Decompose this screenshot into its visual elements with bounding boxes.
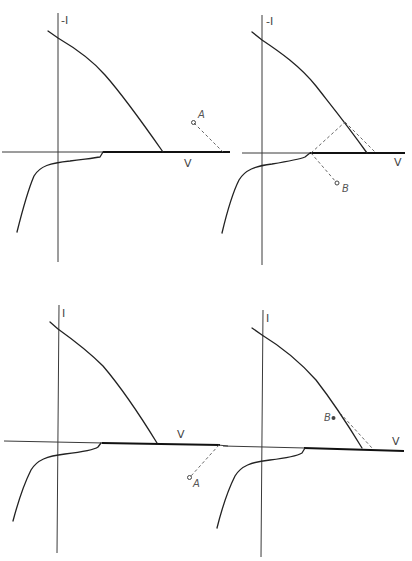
x-axis-thick-segment (304, 448, 404, 451)
x-axis-label: V (184, 157, 192, 170)
x-axis-label: V (392, 435, 400, 448)
point-a-marker (188, 476, 192, 480)
dashed-line-b (311, 153, 336, 182)
y-axis (57, 305, 59, 553)
dashed-line-a (194, 123, 223, 152)
panel-top-left: -I V A (2, 13, 230, 262)
upper-curve (252, 328, 362, 448)
dashed-line-a (191, 445, 219, 476)
point-a-label: A (197, 109, 205, 120)
x-axis-thick-segment (102, 443, 220, 445)
y-axis (261, 310, 263, 557)
point-b-label: B (342, 183, 349, 194)
x-axis (223, 446, 305, 448)
dashed-tangent-line (340, 413, 372, 448)
y-axis-label: -I (61, 14, 68, 27)
x-axis-label: V (394, 156, 402, 169)
panel-top-right: -I V B (222, 15, 405, 265)
iv-curves-figure: -I V A -I V B I V A (0, 0, 412, 561)
lower-curve (17, 152, 103, 232)
point-b-marker (332, 416, 336, 420)
point-a-marker (192, 121, 196, 125)
y-axis-label: I (266, 312, 269, 325)
y-axis-label: -I (266, 15, 273, 28)
upper-curve (252, 32, 367, 153)
lower-curve (222, 153, 310, 233)
dashed-line-parallel (345, 122, 376, 153)
panel-bottom-left: I V A (4, 305, 228, 553)
point-b-marker (335, 181, 339, 185)
upper-curve (48, 31, 163, 152)
x-axis (4, 441, 104, 443)
panel-bottom-right: I V B (217, 310, 404, 557)
y-axis-label: I (62, 307, 65, 320)
upper-curve (50, 322, 157, 443)
point-a-label: A (192, 478, 200, 489)
dashed-line-up (311, 122, 345, 153)
point-b-label: B (324, 412, 331, 423)
x-axis-label: V (177, 428, 185, 441)
